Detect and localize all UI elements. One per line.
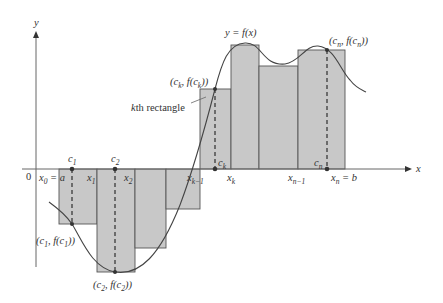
x-axis-arrow-icon	[405, 166, 412, 172]
svg-text:c2: c2	[111, 153, 120, 167]
rectangle-3	[135, 169, 166, 248]
rectangle-4	[166, 169, 200, 209]
svg-text:xn = b: xn = b	[330, 172, 357, 186]
svg-text:(cn, f(cn)): (cn, f(cn))	[329, 35, 368, 49]
rectangle-6	[231, 45, 259, 169]
svg-text:(ck, f(ck)): (ck, f(ck))	[170, 76, 209, 90]
svg-text:xn−1: xn−1	[287, 172, 305, 186]
svg-text:(c1, f(c1)): (c1, f(c1))	[36, 235, 75, 249]
kth-rectangle-label: kth rectangle	[131, 102, 185, 113]
y-axis-label: y	[33, 17, 39, 28]
rectangle-n	[298, 50, 345, 169]
svg-text:(c2, f(c2)): (c2, f(c2))	[93, 279, 132, 293]
curve-label: y = f(x)	[224, 27, 257, 39]
y-axis-arrow-icon	[33, 31, 39, 38]
svg-text:c1: c1	[68, 153, 76, 167]
origin-label: 0	[26, 171, 31, 182]
svg-text:xk: xk	[226, 172, 236, 186]
x-axis-label: x	[415, 163, 421, 174]
rectangle-7	[259, 66, 298, 169]
riemann-sum-diagram: y x 0 y = f(x) kth rectangle x0 = a x1 x…	[0, 0, 443, 303]
